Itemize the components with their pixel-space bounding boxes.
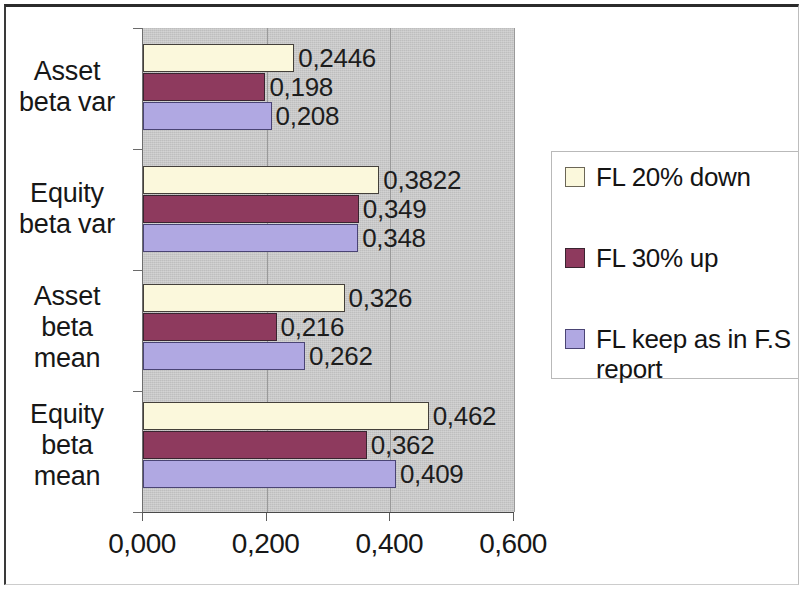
- x-axis-tick: [142, 513, 143, 521]
- bar-value-label: 0,362: [371, 430, 435, 461]
- gridline: [514, 28, 515, 512]
- bar-value-label: 0,326: [349, 283, 413, 314]
- bar-2-4[interactable]: [143, 431, 367, 459]
- legend-label: FL 30% up: [596, 243, 718, 273]
- legend: FL 20% downFL 30% upFL keep as in F.S re…: [551, 151, 799, 379]
- bar-value-label: 0,462: [433, 401, 497, 432]
- category-label-line: Asset: [4, 56, 131, 87]
- bar-1-1[interactable]: [143, 44, 294, 72]
- legend-label: FL keep as in F.S report: [596, 324, 792, 384]
- x-axis-tick-label: 0,200: [196, 528, 336, 560]
- bar-value-label: 0,198: [269, 72, 333, 103]
- legend-swatch-icon: [565, 167, 585, 187]
- bar-row: [143, 431, 514, 459]
- category-label-line: Equity: [4, 399, 131, 430]
- category-label-line: mean: [4, 461, 131, 492]
- y-axis-tick: [133, 28, 142, 29]
- legend-swatch-icon: [565, 329, 585, 349]
- y-axis-tick: [133, 149, 142, 150]
- legend-label: FL 20% down: [596, 162, 751, 192]
- bar-1-3[interactable]: [143, 284, 345, 312]
- bar-value-label: 0,208: [276, 101, 340, 132]
- bar-3-3[interactable]: [143, 342, 305, 370]
- chart-frame: Assetbeta varEquitybeta varAssetbetamean…: [4, 4, 799, 585]
- bar-3-1[interactable]: [143, 102, 272, 130]
- bar-value-label: 0,262: [309, 341, 373, 372]
- legend-item-2[interactable]: FL 30% up: [565, 243, 718, 273]
- category-label-line: beta: [4, 312, 131, 343]
- bar-2-1[interactable]: [143, 73, 265, 101]
- y-axis-tick: [133, 391, 142, 392]
- bar-value-label: 0,3822: [383, 165, 461, 196]
- category-label-line: Asset: [4, 281, 131, 312]
- category-label-line: beta: [4, 430, 131, 461]
- x-axis-tick: [389, 513, 390, 521]
- category-label-line: mean: [4, 343, 131, 374]
- category-label-1: Assetbeta var: [4, 56, 131, 118]
- category-label-line: Equity: [4, 178, 131, 209]
- bar-3-2[interactable]: [143, 224, 358, 252]
- x-axis-tick: [266, 513, 267, 521]
- category-label-line: beta var: [4, 209, 131, 240]
- bar-value-label: 0,349: [363, 194, 427, 225]
- y-axis-tick: [133, 512, 142, 513]
- bar-2-2[interactable]: [143, 195, 359, 223]
- x-axis-tick-label: 0,600: [443, 528, 583, 560]
- legend-swatch-icon: [565, 248, 585, 268]
- bar-row: [143, 195, 514, 223]
- bar-row: [143, 224, 514, 252]
- y-axis-tick: [133, 270, 142, 271]
- legend-item-3[interactable]: FL keep as in F.S report: [565, 324, 792, 384]
- bar-value-label: 0,348: [362, 223, 426, 254]
- bar-value-label: 0,409: [400, 459, 464, 490]
- bar-1-4[interactable]: [143, 402, 429, 430]
- bar-1-2[interactable]: [143, 166, 379, 194]
- legend-item-1[interactable]: FL 20% down: [565, 162, 751, 192]
- x-axis-tick: [513, 513, 514, 521]
- bar-value-label: 0,2446: [298, 43, 376, 74]
- x-axis-tick-label: 0,000: [72, 528, 212, 560]
- category-label-line: beta var: [4, 87, 131, 118]
- x-axis-tick-label: 0,400: [319, 528, 459, 560]
- x-axis-tick-labels: 0,0000,2000,4000,600: [6, 528, 799, 568]
- bar-row: [143, 284, 514, 312]
- bar-value-label: 0,216: [281, 312, 345, 343]
- category-label-2: Equitybeta var: [4, 178, 131, 240]
- bar-2-3[interactable]: [143, 313, 277, 341]
- bar-3-4[interactable]: [143, 460, 396, 488]
- category-label-4: Equitybetamean: [4, 399, 131, 492]
- category-label-3: Assetbetamean: [4, 281, 131, 374]
